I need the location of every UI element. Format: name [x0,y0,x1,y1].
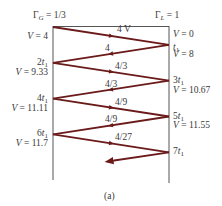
generator-side-labels: V = 42t1V = 9.334t1V = 11.116t1V = 11.7 [11,31,48,148]
wave-label-1: 4 V [117,24,131,34]
load-voltage-7: V = 11.55 [173,120,210,130]
generator-voltage-3: V = 9.33 [15,67,48,77]
gamma-g-label: ΓG = 1/3 [33,10,66,22]
figure-caption: (a) [104,191,115,202]
wave-label-3: 4/3 [115,61,127,71]
wave-label-2: 4 [105,43,110,53]
load-voltage-1: V = 0 [173,29,194,39]
load-side-labels: V = 0t1V = 83t1V = 10.675t1V = 11.557t1 [173,29,211,158]
wave-label-6: 4/9 [105,114,117,124]
load-voltage-5: V = 10.67 [173,85,211,95]
generator-voltage-7: V = 11.7 [16,138,48,148]
generator-voltage-1: V = 4 [27,31,48,41]
wave-label-5: 4/9 [115,97,127,107]
load-voltage-3: V = 8 [173,49,194,59]
load-time-8: 7t1 [173,146,184,158]
wave-segments [53,27,169,161]
bounce-diagram: ΓG = 1/3 ΓL = 1 4 V44/34/34/94/94/27 V =… [0,0,222,206]
wave-label-7: 4/27 [115,132,132,142]
wave-label-4: 4/3 [105,79,117,89]
generator-voltage-5: V = 11.11 [11,103,48,113]
wave-segment-8 [109,152,169,161]
gamma-l-label: ΓL = 1 [155,10,180,22]
